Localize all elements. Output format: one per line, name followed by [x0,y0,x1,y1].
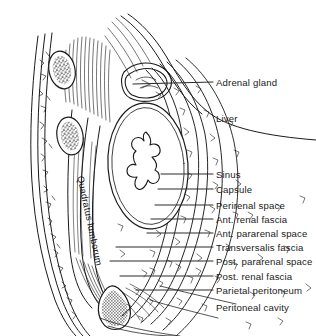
label-perirenal-space: Perirenal space [216,201,285,211]
label-parietal-peritoneum: Parietal peritoneum [216,286,302,296]
label-ant-renal-fascia: Ant. renal fascia [216,215,287,225]
label-peritoneal-cavity: Peritoneal cavity [216,303,289,313]
label-sinus: Sinus [216,170,241,180]
label-adrenal-gland: Adrenal gland [216,78,277,88]
vertebral-body-upper [45,49,78,92]
label-post-renal-fascia: Post. renal fascia [216,272,292,282]
label-ant-pararenal-space: Ant. pararenal space [216,229,308,239]
subcutaneous-fat-texture [39,52,76,319]
label-post-pararenal-space: Post. pararenal space [216,257,312,267]
leader-line-adrenal-gland [133,82,213,84]
label-transversalis-fascia: Transversalis fascia [216,243,303,253]
vertebral-body-middle [54,115,86,157]
label-capsule: Capsule [216,185,252,195]
anatomical-figure: Adrenal glandLiverSinusCapsulePerirenal … [0,0,316,336]
label-liver: Liver [216,114,238,124]
